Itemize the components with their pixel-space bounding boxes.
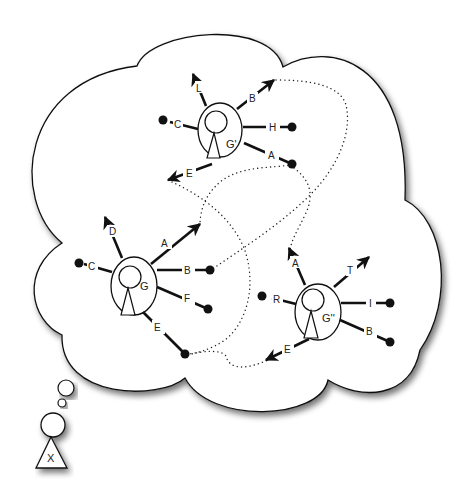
port-gpp-t-label: T bbox=[347, 265, 353, 276]
port-g-c-dot-icon bbox=[75, 259, 84, 268]
node-g-head bbox=[119, 266, 141, 288]
port-gp-l-label: L bbox=[196, 83, 202, 94]
diagram-canvas: X G' L B C H A bbox=[0, 0, 460, 495]
port-gpp-r-label: R bbox=[273, 294, 280, 305]
thought-cloud bbox=[32, 34, 441, 411]
diagram-svg: X G' L B C H A bbox=[0, 0, 460, 495]
port-g-f-dot-icon bbox=[204, 305, 213, 314]
node-g-prime-head bbox=[205, 111, 227, 133]
port-g-b-label: B bbox=[184, 265, 191, 276]
port-gpp-i-label: I bbox=[369, 298, 372, 309]
port-gp-b-label: B bbox=[249, 93, 256, 104]
thinker-label: X bbox=[47, 452, 55, 464]
port-g-e-label: E bbox=[154, 322, 161, 333]
port-gp-a-label: A bbox=[268, 150, 275, 161]
port-gp-a-dot-icon bbox=[288, 160, 297, 169]
port-gpp-b-dot-icon bbox=[386, 338, 395, 347]
port-gp-h-label: H bbox=[269, 122, 276, 133]
port-gp-e-label: E bbox=[186, 168, 193, 179]
port-g-d-label: D bbox=[109, 226, 116, 237]
thought-bubble-small bbox=[58, 399, 66, 407]
port-g-c-label: C bbox=[88, 261, 95, 272]
node-g-double-prime-head bbox=[302, 289, 324, 311]
port-g-f-label: F bbox=[184, 293, 190, 304]
port-gp-c-dot-icon bbox=[159, 116, 168, 125]
node-g-prime-label: G' bbox=[226, 138, 237, 150]
port-gpp-a-label: A bbox=[292, 258, 299, 269]
port-g-a-label: A bbox=[161, 238, 168, 249]
node-g-double-prime-label: G'' bbox=[322, 312, 335, 324]
port-gpp-i-dot-icon bbox=[386, 299, 395, 308]
node-g-label: G bbox=[140, 280, 149, 292]
thought-bubble-large bbox=[58, 380, 74, 396]
port-gp-h-dot-icon bbox=[288, 123, 297, 132]
port-gpp-b-label: B bbox=[366, 326, 373, 337]
port-gpp-e-label: E bbox=[284, 344, 291, 355]
port-g-b-dot-icon bbox=[206, 266, 215, 275]
thinker-head bbox=[41, 413, 65, 437]
port-gp-c-label: C bbox=[174, 119, 181, 130]
port-g-e-dot-icon bbox=[181, 350, 190, 359]
port-gpp-r-dot-icon bbox=[258, 292, 267, 301]
